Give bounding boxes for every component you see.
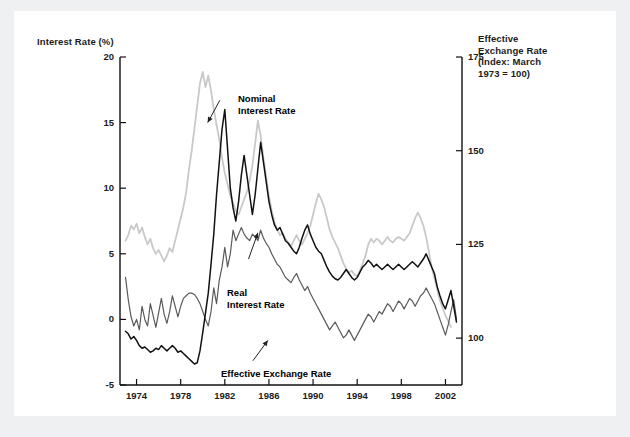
left-axis-title: Interest Rate (%) (37, 36, 114, 48)
annotation-arrows (208, 100, 268, 360)
annotation-real-interest-rate: Real Interest Rate (227, 287, 285, 310)
left-tick-label: 10 (76, 182, 114, 193)
figure-page: Interest Rate (%) Effective Exchange Rat… (14, 11, 616, 416)
right-tick-label: 100 (468, 332, 484, 343)
x-tick-label: 1986 (249, 390, 289, 401)
left-tick-label: 5 (76, 248, 114, 259)
chart-plot-area: Interest Rate (%) Effective Exchange Rat… (14, 11, 616, 416)
left-tick-label: 0 (76, 313, 114, 324)
left-tick-label: -5 (76, 379, 114, 390)
x-tick-label: 1974 (117, 390, 157, 401)
x-tick-label: 1990 (293, 390, 333, 401)
x-tick-label: 2002 (425, 390, 465, 401)
right-tick-label: 150 (468, 145, 484, 156)
right-tick-label: 125 (468, 238, 484, 249)
left-tick-label: 20 (76, 51, 114, 62)
x-tick-label: 1978 (161, 390, 201, 401)
x-tick-label: 1994 (337, 390, 377, 401)
left-tick-label: 15 (76, 117, 114, 128)
right-tick-label: 175 (468, 51, 484, 62)
annotation-effective-exchange-rate: Effective Exchange Rate (221, 368, 331, 380)
annotation-nominal-interest-rate: Nominal Interest Rate (238, 93, 296, 116)
right-axis-title: Effective Exchange Rate (Index: March 19… (478, 33, 547, 79)
figure-canvas: Interest Rate (%) Effective Exchange Rat… (0, 0, 630, 437)
x-tick-label: 1982 (205, 390, 245, 401)
annotation-arrow-2 (253, 340, 268, 360)
annotation-arrow-1 (249, 233, 259, 259)
x-tick-label: 1998 (381, 390, 421, 401)
